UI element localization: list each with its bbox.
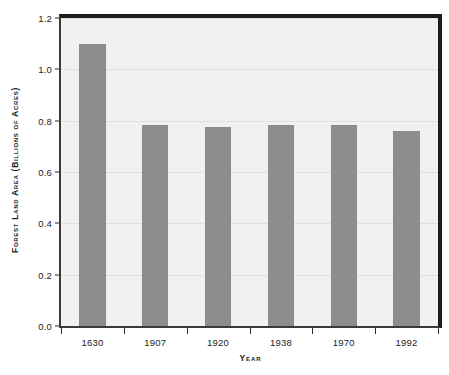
y-axis-tick-label: 0.4 <box>22 218 52 229</box>
x-axis-tick-mark <box>187 328 188 334</box>
x-axis-tick-mark <box>375 328 376 334</box>
x-axis-tick-label: 1907 <box>144 337 166 348</box>
gridline <box>61 121 438 122</box>
x-axis-title: Year <box>59 353 442 363</box>
bar <box>393 131 419 326</box>
x-axis-tick-mark <box>250 328 251 334</box>
y-axis-tick-label: 0.0 <box>22 321 52 332</box>
gridline <box>61 223 438 224</box>
x-axis-tick-mark <box>61 328 62 334</box>
gridline <box>61 18 438 19</box>
x-axis-tick-label: 1938 <box>270 337 292 348</box>
x-axis-tick-mark <box>438 328 439 334</box>
y-axis-tick-label: 0.2 <box>22 269 52 280</box>
bar <box>142 125 168 326</box>
gridline <box>61 69 438 70</box>
y-axis-title: Forest Land Area (Billions of Acres) <box>10 87 20 253</box>
x-axis-tick-label: 1970 <box>333 337 355 348</box>
y-axis-ticks: 0.00.20.40.60.81.01.2 <box>22 10 52 330</box>
bar <box>268 125 294 326</box>
x-axis-tick-label: 1630 <box>81 337 103 348</box>
gridline <box>61 275 438 276</box>
plot-frame <box>59 14 442 328</box>
x-axis-tick-label: 1920 <box>207 337 229 348</box>
gridline <box>61 172 438 173</box>
y-axis-tick-label: 0.6 <box>22 167 52 178</box>
y-axis-tick-label: 1.2 <box>22 13 52 24</box>
bar <box>205 127 231 326</box>
bar-chart: Forest Land Area (Billions of Acres) 0.0… <box>0 0 449 375</box>
y-axis-tick-label: 0.8 <box>22 115 52 126</box>
x-axis-tick-label: 1992 <box>396 337 418 348</box>
x-axis-tick-mark <box>312 328 313 334</box>
bar <box>79 44 105 326</box>
plot-area <box>61 18 438 326</box>
x-axis-tick-mark <box>124 328 125 334</box>
bar <box>331 125 357 326</box>
y-axis-tick-label: 1.0 <box>22 64 52 75</box>
